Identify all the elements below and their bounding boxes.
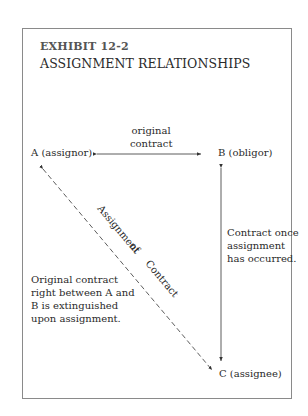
ac-dashed-arrow	[43, 169, 212, 370]
diagram-arrows	[0, 0, 308, 416]
